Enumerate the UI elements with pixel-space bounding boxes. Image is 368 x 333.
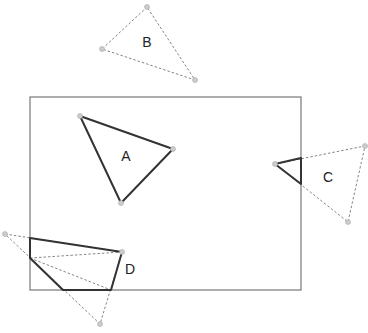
vertex-marker [363,144,368,149]
original-polygon-d [5,234,122,324]
vertex-marker [273,162,278,167]
vertex-marker [346,220,351,225]
vertex-marker [3,232,8,237]
clipped-polygon-c [275,158,301,184]
label-d: D [125,261,135,277]
label-b: B [142,34,151,50]
vertex-marker [98,322,103,327]
label-c: C [323,169,333,185]
fan-line [30,252,122,258]
vertex-marker [119,201,124,206]
vertex-marker [78,114,83,119]
vertex-marker [193,78,198,83]
clip-window [30,97,301,290]
vertex-marker [171,147,176,152]
clipping-diagram: A B C D [0,0,368,333]
fan-line [30,258,111,290]
original-polygon-c [275,146,365,222]
vertex-marker [100,47,105,52]
vertex-marker [145,5,150,10]
label-a: A [121,148,131,164]
vertex-markers [3,5,368,327]
clipped-polygon-d [30,238,122,290]
original-polygons [5,7,365,324]
clipped-polygons [30,116,301,290]
vertex-marker [120,250,125,255]
